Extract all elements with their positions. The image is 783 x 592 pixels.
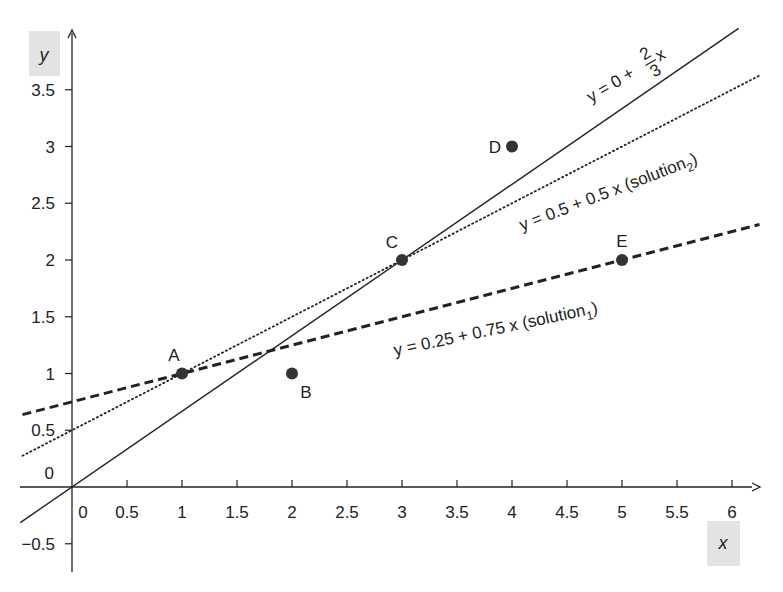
x-tick-label: 3 — [397, 503, 406, 522]
data-points: ABCDE — [168, 138, 628, 402]
regression-line-dashed — [23, 225, 760, 415]
x-tick-label: 3.5 — [445, 503, 469, 522]
x-tick-label: 0.5 — [115, 503, 139, 522]
data-point-a — [176, 368, 188, 380]
x-axis-label-text: x — [718, 533, 729, 553]
equation-dashed-text: y = 0.25 + 0.75 x (solution1) — [392, 298, 600, 364]
y-axis-label: y — [29, 31, 60, 76]
x-tick-label: 6 — [727, 503, 736, 522]
y-tick-label: 1 — [46, 365, 55, 384]
data-point-d — [506, 141, 518, 153]
x-tick-label: 5 — [617, 503, 626, 522]
y-tick-label: −0.5 — [21, 535, 55, 554]
point-label-a: A — [168, 346, 180, 365]
y-tick-label: 3.5 — [31, 81, 55, 100]
y-tick-label: 1.5 — [31, 308, 55, 327]
data-point-b — [286, 368, 298, 380]
y-tick-label: 2.5 — [31, 194, 55, 213]
x-tick-label: 4 — [507, 503, 516, 522]
data-point-c — [396, 254, 408, 266]
regression-line-solid — [20, 28, 738, 522]
data-point-e — [616, 254, 628, 266]
y-tick-label: 0 — [45, 464, 54, 483]
x-tick-label: 2 — [287, 503, 296, 522]
equation-dashed-main: y = 0.25 + 0.75 x (solution — [392, 301, 587, 360]
equation-solid-text: y = 0 + — [583, 63, 637, 106]
regression-line-dotted — [23, 76, 760, 456]
x-axis-arrow-icon — [752, 483, 760, 491]
point-label-c: C — [386, 233, 398, 252]
x-tick-label: 5.5 — [665, 503, 689, 522]
regression-lines — [20, 28, 759, 522]
axes: 00.511.522.533.544.555.56−0.500.511.522.… — [20, 30, 760, 572]
y-axis-label-text: y — [38, 45, 50, 65]
y-tick-label: 2 — [46, 251, 55, 270]
y-tick-label: 0.5 — [31, 421, 55, 440]
y-tick-label: 3 — [46, 138, 55, 157]
x-tick-label: 1 — [177, 503, 186, 522]
point-label-e: E — [616, 232, 627, 251]
x-tick-label: 2.5 — [335, 503, 359, 522]
regression-chart: 00.511.522.533.544.555.56−0.500.511.522.… — [0, 0, 783, 592]
point-label-d: D — [489, 138, 501, 157]
x-axis-label: x — [707, 521, 740, 566]
equation-dotted-main: y = 0.5 + 0.5 x (solution — [517, 154, 689, 235]
x-tick-label: 0 — [78, 503, 87, 522]
point-label-b: B — [300, 383, 311, 402]
equation-dashed-line: y = 0.25 + 0.75 x (solution1) — [392, 298, 600, 364]
equation-solid-line: y = 0 + 2 3 x — [579, 37, 675, 116]
x-tick-label: 1.5 — [225, 503, 249, 522]
x-tick-label: 4.5 — [555, 503, 579, 522]
